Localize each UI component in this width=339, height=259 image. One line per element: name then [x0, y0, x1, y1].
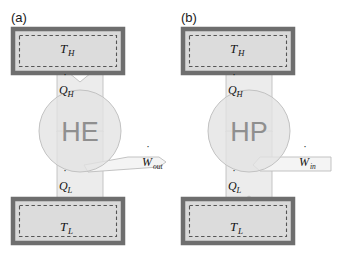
panel-b-hot-reservoir-subscript: H	[237, 48, 245, 58]
panel-b-heat-in-subscript: H	[236, 89, 244, 99]
panel-b-cold-reservoir: T L	[183, 199, 293, 243]
panel-a-hot-reservoir-label: T	[60, 41, 68, 56]
panel-b-device: HP	[208, 90, 290, 172]
panel-b-work-label: W	[299, 155, 310, 169]
panel-a-work-label: W	[142, 155, 153, 169]
panel-b-cold-reservoir-subscript: L	[237, 226, 243, 236]
panel-b-label: (b)	[181, 10, 197, 25]
panel-b-device-label: HP	[230, 117, 268, 147]
panel-a-cold-reservoir-label: T	[60, 219, 68, 234]
panel-a-label: (a)	[11, 10, 27, 25]
panel-a-heat-out-subscript: L	[67, 185, 73, 195]
panel-a-hot-reservoir-subscript: H	[67, 48, 75, 58]
panel-a-device: HE	[39, 90, 121, 172]
thermodynamics-diagram: (a) T H T L HE	[0, 0, 339, 259]
panel-a-heat-in-subscript: H	[67, 89, 75, 99]
panel-a-work-subscript: out	[153, 162, 164, 171]
panel-a-device-label: HE	[61, 117, 99, 147]
panel-a-cold-reservoir-subscript: L	[67, 226, 73, 236]
panel-b-hot-reservoir-label: T	[230, 41, 238, 56]
panel-b-work-subscript: in	[310, 162, 316, 171]
panel-a-cold-reservoir: T L	[13, 199, 123, 243]
panel-a-hot-reservoir: T H	[13, 29, 123, 73]
panel-b-cold-reservoir-label: T	[230, 219, 238, 234]
panel-b-heat-out-subscript: L	[236, 185, 242, 195]
panel-b-hot-reservoir: T H	[183, 29, 293, 73]
